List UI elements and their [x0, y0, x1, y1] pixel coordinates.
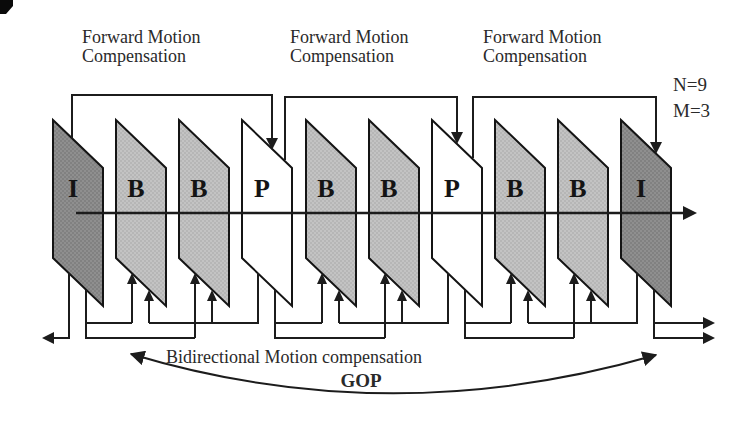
frame-letter-10: I [636, 174, 646, 203]
gop-structure-figure: I B B P B B P B B I [0, 0, 752, 428]
param-m: M=3 [673, 100, 710, 121]
caption-gop: GOP [340, 370, 382, 391]
frame-letter-6: B [380, 174, 397, 203]
right-arrowhead-upper [703, 317, 715, 329]
param-n: N=9 [673, 74, 707, 95]
fmc-label-2-line1: Forward Motion [290, 27, 409, 47]
fmc-label-1-line2: Compensation [82, 46, 186, 66]
frame-letter-7: P [444, 174, 460, 203]
fmc-label-1-line1: Forward Motion [82, 27, 201, 47]
frame-letter-4: P [254, 174, 270, 203]
frame-letter-9: B [569, 174, 586, 203]
fmc-label-2-line2: Compensation [290, 46, 394, 66]
caption-bidirectional: Bidirectional Motion compensation [166, 347, 422, 367]
prev-gop-link [42, 273, 69, 344]
fmc-label-3-line1: Forward Motion [483, 27, 602, 47]
frame-letter-1: I [68, 174, 78, 203]
right-arrowhead-lower [703, 332, 715, 344]
corner-artifact [0, 0, 13, 14]
fmc-label-3-line2: Compensation [483, 46, 587, 66]
left-arrowhead [42, 332, 54, 344]
frame-letter-2: B [127, 174, 144, 203]
frame-letter-3: B [190, 174, 207, 203]
frame-letter-5: B [317, 174, 334, 203]
frame-letter-8: B [506, 174, 523, 203]
time-axis-arrowhead [683, 206, 697, 220]
gop-diagram: I B B P B B P B B I [0, 0, 752, 428]
